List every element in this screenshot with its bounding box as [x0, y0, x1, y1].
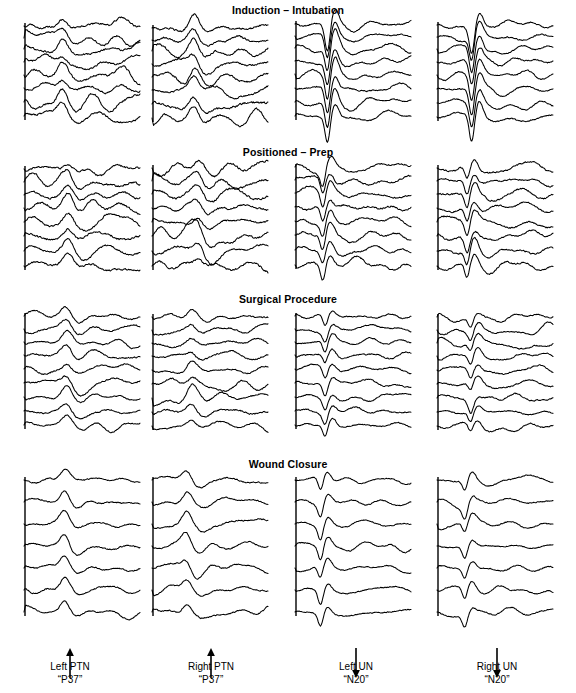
waveform-trace-6 — [295, 378, 411, 396]
waveform-trace-7 — [24, 386, 140, 403]
waveform-trace-2 — [437, 322, 553, 341]
waveform-trace-4 — [437, 540, 553, 558]
waveform-trace-7 — [437, 237, 553, 264]
waveform-trace-8 — [152, 259, 268, 273]
waveform-trace-1 — [295, 156, 411, 186]
waveform-trace-3 — [295, 517, 411, 540]
waveform-trace-6 — [24, 229, 140, 240]
waveform-trace-4 — [152, 532, 268, 553]
waveform-panel-r4-c3 — [295, 472, 433, 640]
waveform-trace-2 — [295, 494, 411, 517]
column-label-left-ptn: Left PTN “P37” — [10, 661, 130, 686]
waveform-trace-1 — [152, 471, 268, 488]
waveform-panel-r2-c4 — [437, 163, 575, 301]
ssep-figure: Induction – Intubation Positioned – Prep… — [0, 0, 576, 693]
waveform-trace-7 — [24, 89, 140, 112]
waveform-trace-1 — [152, 14, 268, 32]
waveform-trace-4 — [152, 54, 268, 75]
waveform-trace-3 — [152, 185, 268, 202]
waveform-trace-6 — [295, 222, 411, 249]
waveform-trace-4 — [437, 48, 553, 84]
waveform-trace-7 — [152, 97, 268, 114]
waveform-trace-2 — [437, 496, 553, 519]
waveform-trace-3 — [24, 185, 140, 200]
waveform-trace-8 — [295, 406, 411, 425]
waveform-trace-4 — [437, 347, 553, 364]
waveform-trace-9 — [437, 421, 553, 432]
waveform-trace-5 — [24, 213, 140, 231]
waveform-trace-5 — [152, 218, 268, 229]
waveform-trace-8 — [152, 404, 268, 417]
waveform-panel-r1-c2 — [152, 22, 290, 152]
waveform-panel-r1-c4 — [437, 22, 575, 152]
waveform-trace-6 — [152, 377, 268, 391]
column-label-right-un-line1: Right UN — [437, 661, 557, 674]
waveform-trace-2 — [24, 491, 140, 508]
waveform-trace-3 — [437, 333, 553, 350]
waveform-trace-1 — [295, 311, 411, 326]
waveform-trace-3 — [24, 510, 140, 528]
waveform-trace-1 — [437, 160, 553, 179]
waveform-panel-r2-c1 — [24, 163, 162, 301]
waveform-panel-r4-c2 — [152, 472, 290, 640]
waveform-trace-5 — [295, 210, 411, 236]
waveform-trace-3 — [437, 36, 553, 72]
waveform-trace-7 — [295, 242, 411, 263]
waveform-trace-4 — [24, 345, 140, 360]
waveform-trace-4 — [295, 200, 411, 221]
waveform-trace-5 — [295, 364, 411, 378]
waveform-panel-r3-c4 — [437, 312, 575, 460]
waveform-trace-1 — [24, 469, 140, 483]
waveform-trace-7 — [295, 89, 411, 128]
waveform-trace-5 — [24, 62, 140, 85]
waveform-trace-4 — [295, 537, 411, 559]
waveform-trace-6 — [437, 582, 553, 599]
waveform-trace-5 — [295, 558, 411, 577]
waveform-trace-6 — [24, 80, 140, 94]
waveform-trace-7 — [152, 243, 268, 265]
waveform-trace-7 — [437, 393, 553, 413]
column-label-left-un-line1: Left UN — [296, 661, 416, 674]
row-title-induction-intubation: Induction – Intubation — [0, 4, 576, 16]
waveform-trace-2 — [152, 492, 268, 508]
waveform-trace-8 — [24, 404, 140, 419]
waveform-trace-5 — [24, 556, 140, 574]
waveform-trace-7 — [24, 239, 140, 261]
waveform-trace-1 — [24, 164, 140, 175]
waveform-trace-8 — [437, 101, 553, 141]
waveform-trace-3 — [152, 511, 268, 532]
column-label-left-ptn-line1: Left PTN — [10, 661, 130, 674]
waveform-trace-9 — [24, 415, 140, 433]
column-label-right-ptn-line2: “P37” — [151, 674, 271, 687]
waveform-trace-2 — [24, 28, 140, 46]
waveform-panel-r3-c2 — [152, 312, 290, 460]
waveform-trace-2 — [295, 22, 411, 57]
waveform-trace-5 — [437, 365, 553, 378]
waveform-trace-6 — [24, 376, 140, 396]
waveform-trace-1 — [437, 313, 553, 327]
waveform-trace-4 — [24, 54, 140, 70]
waveform-trace-6 — [437, 376, 553, 389]
waveform-trace-1 — [437, 472, 553, 490]
waveform-trace-3 — [152, 338, 268, 348]
waveform-trace-5 — [24, 364, 140, 375]
waveform-panel-r3-c1 — [24, 312, 162, 460]
waveform-trace-8 — [24, 253, 140, 271]
column-label-right-ptn-line1: Right PTN — [151, 661, 271, 674]
waveform-panel-r3-c3 — [295, 312, 433, 460]
waveform-trace-3 — [24, 330, 140, 349]
waveform-trace-7 — [295, 607, 411, 626]
waveform-panel-r4-c4 — [437, 472, 575, 640]
waveform-trace-2 — [437, 175, 553, 193]
waveform-trace-3 — [437, 183, 553, 208]
waveform-trace-8 — [295, 256, 411, 280]
waveform-trace-9 — [152, 420, 268, 432]
column-label-left-un: Left UN “N20” — [296, 661, 416, 686]
waveform-trace-6 — [24, 577, 140, 595]
waveform-trace-8 — [152, 107, 268, 127]
waveform-panel-r2-c2 — [152, 163, 290, 301]
waveform-trace-6 — [437, 230, 553, 253]
waveform-trace-3 — [295, 181, 411, 207]
waveform-trace-1 — [152, 160, 268, 177]
waveform-trace-7 — [152, 605, 268, 619]
